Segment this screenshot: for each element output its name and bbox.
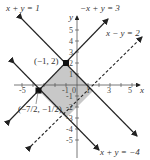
y-tick-label: 4 [69, 37, 73, 46]
y-axis-label: y [68, 12, 73, 22]
line-label: x + y = 1 [5, 3, 40, 13]
vertex-point [36, 88, 42, 94]
line-label: x + y = −4 [99, 147, 140, 157]
y-tick-label: 3 [69, 48, 73, 57]
x-tick-label: -5 [19, 86, 26, 95]
x-axis-label: x [139, 85, 144, 95]
x-tick-label: 3 [107, 86, 111, 95]
line-label: x − y = 2 [105, 28, 140, 38]
x-tick-label: 1 [86, 86, 90, 95]
y-tick-label: -5 [66, 136, 73, 145]
label-pointer [36, 92, 38, 104]
y-tick-label: 1 [69, 70, 73, 79]
y-tick-label: 2 [69, 59, 73, 68]
y-tick-label: -2 [66, 103, 73, 112]
point-label: (−1, 2) [34, 56, 59, 66]
y-tick-label: -3 [66, 114, 73, 123]
y-tick-label: -1 [66, 92, 73, 101]
x-tick-label: 5 [128, 86, 132, 95]
point-label: (−7/2, −1/2) [18, 104, 62, 114]
y-tick-label: 5 [69, 26, 73, 35]
line-label: −x + y = 3 [80, 3, 120, 13]
y-tick-label: -4 [66, 125, 73, 134]
graph: -5 -1 0 1 3 5 5 4 3 2 1 -1 -2 -3 -4 -5 x… [0, 0, 150, 160]
